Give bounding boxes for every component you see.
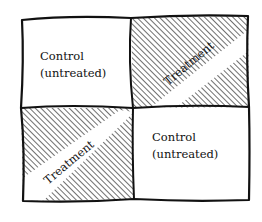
cell-bottom-right-control: Control (untreated) bbox=[152, 130, 218, 161]
cell-top-right-treatment: Treatment bbox=[125, 10, 255, 115]
experimental-layout-diagram: Treatment Treatment Control (untreated) … bbox=[0, 0, 262, 222]
cell-bottom-right-label-line2: (untreated) bbox=[152, 147, 218, 161]
cell-bottom-left-treatment: Treatment bbox=[15, 100, 140, 210]
cell-top-left-label-line2: (untreated) bbox=[40, 66, 106, 80]
cell-top-left-control: Control (untreated) bbox=[40, 49, 106, 80]
cell-bottom-right-label-line1: Control bbox=[152, 130, 196, 144]
cell-top-left-label-line1: Control bbox=[40, 49, 84, 63]
